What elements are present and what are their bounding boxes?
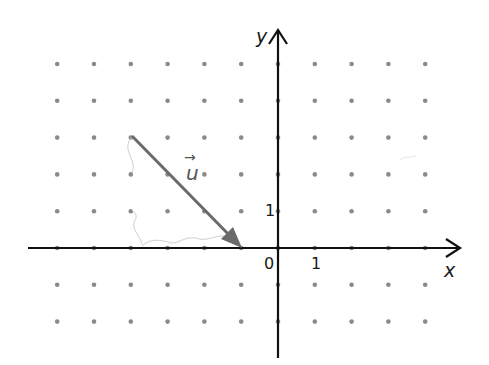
grid-dot	[349, 62, 354, 67]
grid-dot	[92, 135, 97, 140]
grid-dot	[386, 99, 391, 104]
grid-dot	[423, 319, 428, 324]
grid-dot	[202, 319, 207, 324]
grid-dot	[202, 62, 207, 67]
grid-dot	[313, 209, 318, 214]
grid-dot	[129, 99, 134, 104]
grid-dot	[349, 319, 354, 324]
grid-dot	[239, 135, 244, 140]
grid-dot	[239, 62, 244, 67]
grid-dot	[165, 99, 170, 104]
grid-dot	[349, 172, 354, 177]
grid-dot	[386, 283, 391, 288]
axes	[28, 30, 460, 358]
grid-dot	[165, 319, 170, 324]
grid-dot	[55, 319, 60, 324]
grid-dot	[129, 62, 134, 67]
grid-dot	[386, 319, 391, 324]
grid-dot	[202, 99, 207, 104]
x-axis-label: x	[444, 261, 455, 280]
grid-dot	[92, 99, 97, 104]
x-unit-label: 1	[311, 256, 321, 272]
grid-dot	[202, 283, 207, 288]
pencil-marks	[128, 137, 416, 246]
grid-dot	[129, 209, 134, 214]
vector-label: u	[186, 163, 199, 183]
grid-dot	[202, 135, 207, 140]
grid-dot	[92, 209, 97, 214]
plot-canvas	[0, 0, 489, 365]
grid-dot	[239, 283, 244, 288]
y-unit-label: 1	[265, 203, 275, 219]
grid-dot	[349, 135, 354, 140]
grid-dot	[239, 319, 244, 324]
grid-dot	[239, 172, 244, 177]
grid-dot	[423, 209, 428, 214]
grid-dot	[129, 172, 134, 177]
grid-dot	[313, 319, 318, 324]
grid-dot	[423, 135, 428, 140]
grid-dot	[313, 172, 318, 177]
grid-dot	[386, 209, 391, 214]
grid-dot	[55, 99, 60, 104]
grid-dot	[129, 283, 134, 288]
grid-dot	[423, 62, 428, 67]
grid-dot	[349, 209, 354, 214]
grid-dot	[92, 172, 97, 177]
grid-dot	[313, 135, 318, 140]
grid-dot	[313, 283, 318, 288]
grid-dot	[349, 283, 354, 288]
grid-dot	[386, 172, 391, 177]
y-axis-label: y	[256, 27, 267, 46]
grid-dot	[92, 319, 97, 324]
grid-dot	[349, 99, 354, 104]
grid-dot	[239, 209, 244, 214]
grid-dot	[55, 135, 60, 140]
grid-dot	[55, 172, 60, 177]
grid-dot	[423, 283, 428, 288]
grid-dot	[55, 209, 60, 214]
grid-dot	[239, 99, 244, 104]
grid-dot	[423, 172, 428, 177]
grid-dot	[165, 135, 170, 140]
grid-dot	[129, 319, 134, 324]
grid-dot	[386, 135, 391, 140]
grid-dot	[313, 99, 318, 104]
grid-dot	[55, 283, 60, 288]
grid-dot	[165, 209, 170, 214]
coordinate-plane: y x 0 1 1 → u	[0, 0, 489, 365]
grid-dot	[386, 62, 391, 67]
grid-dot	[202, 172, 207, 177]
grid-dot	[92, 62, 97, 67]
grid-dot	[165, 62, 170, 67]
grid-dot	[92, 283, 97, 288]
grid-dots	[55, 62, 428, 324]
grid-dot	[423, 99, 428, 104]
grid-dot	[165, 283, 170, 288]
grid-dot	[313, 62, 318, 67]
grid-dot	[55, 62, 60, 67]
origin-label: 0	[264, 256, 274, 272]
